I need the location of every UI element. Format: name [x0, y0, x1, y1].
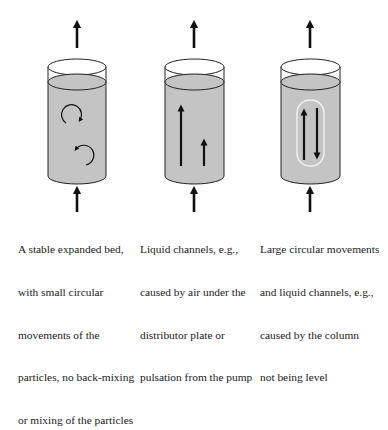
caption-line: Liquid channels, e.g.,: [140, 242, 252, 256]
caption-line: caused by the column: [260, 328, 379, 342]
caption-line: caused by air under the: [140, 285, 252, 299]
column-stable-bed: [48, 24, 106, 212]
caption-line: A stable expanded bed,: [18, 242, 134, 256]
caption-line: or mixing of the particles: [18, 413, 134, 427]
caption-line: Large circular movements: [260, 242, 379, 256]
liquid-surface: [281, 74, 340, 90]
column-rim: [281, 59, 340, 75]
caption-line: and liquid channels, e.g.,: [260, 285, 379, 299]
caption-line: not being level: [260, 370, 379, 384]
column-large-circular-movements: [281, 24, 340, 212]
liquid-surface: [48, 74, 106, 90]
caption-line: particles, no back-mixing: [18, 370, 134, 384]
liquid-body: [281, 82, 340, 184]
column-rim: [48, 59, 106, 75]
liquid-body: [48, 82, 106, 184]
column-liquid-channels: [165, 24, 224, 212]
caption-line: movements of the: [18, 328, 134, 342]
column-rim: [165, 59, 224, 75]
caption-line: distributor plate or: [140, 328, 252, 342]
caption-line: pulsation from the pump: [140, 370, 252, 384]
caption-line: with small circular: [18, 285, 134, 299]
caption-liquid-channels: Liquid channels, e.g., caused by air und…: [140, 214, 252, 399]
liquid-body: [165, 82, 224, 184]
caption-large-circular-movements: Large circular movements and liquid chan…: [260, 214, 379, 399]
liquid-surface: [165, 74, 224, 90]
caption-stable-bed: A stable expanded bed, with small circul…: [18, 214, 134, 430]
